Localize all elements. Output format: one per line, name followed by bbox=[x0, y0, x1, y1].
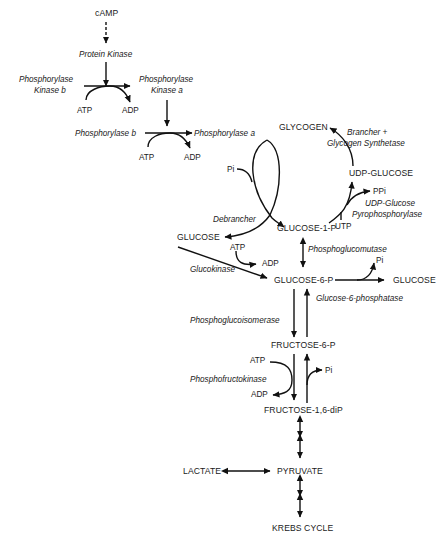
atp-adp-curve-3 bbox=[236, 251, 256, 264]
pi-label-2: Pi bbox=[376, 256, 383, 265]
debrancher-label: Debrancher bbox=[213, 215, 256, 224]
phosphorylase-b-label: Phosphorylase b bbox=[75, 129, 136, 138]
atp-label-1: ATP bbox=[77, 106, 93, 115]
krebs-cycle-label: KREBS CYCLE bbox=[272, 523, 333, 533]
glucose-6-p-label: GLUCOSE-6-P bbox=[274, 275, 334, 285]
phosphoglucoisomerase-label: Phosphoglucoisomerase bbox=[190, 316, 280, 325]
phosphorylase-a-label: Phosphorylase a bbox=[194, 129, 255, 138]
ppi-label: PPi bbox=[373, 187, 386, 196]
lactate-label: LACTATE bbox=[183, 466, 221, 476]
glucose-1-p-label: GLUCOSE-1-P bbox=[277, 223, 337, 233]
adp-label-1: ADP bbox=[122, 106, 139, 115]
metabolic-pathway-diagram: cAMP Protein Kinase Phosphorylase Kinase… bbox=[0, 0, 445, 534]
glycogen-label: GLYCOGEN bbox=[279, 122, 328, 132]
pi-input-curve bbox=[237, 169, 252, 182]
udp-glucose-label: UDP-GLUCOSE bbox=[349, 168, 413, 178]
phosphorylase-kinase-b-label-2: Kinase b bbox=[34, 86, 66, 95]
fructose-16-dip-label: FRUCTOSE-1,6-diP bbox=[264, 405, 343, 415]
atp-adp-curve-4 bbox=[270, 362, 292, 395]
pi-out-curve-3 bbox=[307, 370, 322, 385]
adp-label-3: ADP bbox=[262, 259, 279, 268]
pi-label-3: Pi bbox=[325, 366, 332, 375]
adp-label-2: ADP bbox=[184, 153, 201, 162]
fructose-6-p-label: FRUCTOSE-6-P bbox=[271, 340, 336, 350]
atp-label-4: ATP bbox=[250, 356, 266, 365]
utp-label: UTP bbox=[335, 222, 352, 231]
atp-label-2: ATP bbox=[139, 153, 155, 162]
pi-label-1: Pi bbox=[227, 165, 234, 174]
phosphorylase-kinase-a-label: Phosphorylase bbox=[139, 75, 194, 84]
adp-label-4: ADP bbox=[251, 390, 268, 399]
udp-glucose-pyrophosphorylase-label-2: Pyrophosphorylase bbox=[352, 210, 423, 219]
glucose-out-label: GLUCOSE bbox=[393, 275, 436, 285]
phosphorylase-kinase-a-label-2: Kinase a bbox=[151, 86, 183, 95]
phosphoglucomutase-label: Phosphoglucomutase bbox=[308, 245, 387, 254]
glucose-free-label: GLUCOSE bbox=[177, 232, 220, 242]
glucose-6-phosphatase-label: Glucose-6-phosphatase bbox=[316, 294, 403, 303]
phosphorylase-kinase-b-label: Phosphorylase bbox=[19, 75, 74, 84]
brancher-label: Brancher + bbox=[347, 128, 387, 137]
pi-out-curve-2 bbox=[357, 263, 374, 280]
atp-label-3: ATP bbox=[230, 243, 246, 252]
atp-to-adp-curve-2 bbox=[148, 133, 190, 148]
glycogen-synthetase-label: Glycogen Synthetase bbox=[327, 139, 405, 148]
atp-to-adp-curve-1 bbox=[86, 86, 130, 102]
udp-glucose-pyrophosphorylase-label: UDP-Glucose bbox=[365, 199, 415, 208]
glucokinase-label: Glucokinase bbox=[190, 265, 236, 274]
pyruvate-label: PYRUVATE bbox=[277, 466, 323, 476]
phosphofructokinase-label: Phosphofructokinase bbox=[190, 375, 267, 384]
camp-label: cAMP bbox=[95, 8, 118, 18]
protein-kinase-label: Protein Kinase bbox=[79, 50, 133, 59]
